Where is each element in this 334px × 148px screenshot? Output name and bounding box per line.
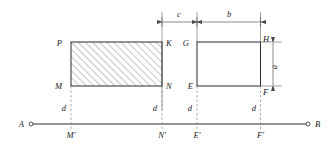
- projection-label-m-prime: M': [66, 130, 76, 140]
- dimension-label-b: b: [227, 9, 231, 19]
- plain-rectangle-ghfe: [197, 42, 261, 86]
- vertex-label-n: N: [165, 81, 173, 91]
- diagram-canvas: P M K N G E H F c b a d d d d A B M' N' …: [0, 0, 334, 148]
- projection-label-n-prime: N': [157, 130, 166, 140]
- hatched-rectangle-pknm: [71, 42, 162, 86]
- vertex-label-f: F: [262, 87, 269, 97]
- vertex-label-e: E: [187, 81, 194, 91]
- dimension-label-a: a: [269, 65, 279, 69]
- vertex-label-m: M: [54, 81, 63, 91]
- projection-label-e-prime: E': [192, 130, 200, 140]
- geometry-diagram: P M K N G E H F c b a d d d d A B M' N' …: [0, 0, 334, 148]
- dimension-label-d3: d: [188, 103, 193, 113]
- vertex-label-p: P: [56, 38, 62, 48]
- projection-lines: [71, 86, 261, 130]
- vertex-label-h: H: [262, 34, 270, 44]
- dimension-label-d4: d: [252, 103, 257, 113]
- baseline-label-a: A: [18, 119, 25, 129]
- dimension-label-d2: d: [153, 103, 158, 113]
- vertex-label-g: G: [183, 38, 189, 48]
- dimension-label-d1: d: [62, 103, 67, 113]
- dimension-label-c: c: [177, 9, 181, 19]
- projection-label-f-prime: F': [256, 130, 264, 140]
- vertex-label-k: K: [165, 38, 173, 48]
- dimension-line-a: [261, 42, 283, 86]
- baseline-label-b: B: [315, 119, 320, 129]
